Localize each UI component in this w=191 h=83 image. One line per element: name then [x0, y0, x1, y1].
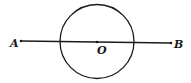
geometry-diagram: A B O [0, 0, 191, 83]
label-b: B [173, 38, 183, 51]
point-b-dot [170, 42, 173, 45]
label-o: O [97, 44, 107, 57]
center-dot [96, 41, 99, 44]
label-a: A [9, 37, 19, 50]
point-a-dot [20, 40, 23, 43]
